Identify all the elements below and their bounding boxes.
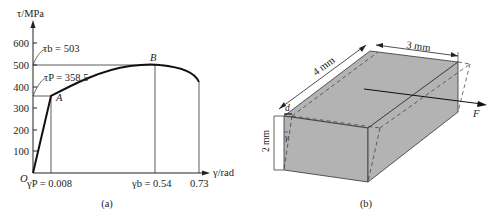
dim-width-label: 3 mm [406,39,432,53]
figure-canvas: 600 500 400 300 200 100 τ/MPa γ/rad O τb… [0,0,491,220]
y-tick-300: 300 [13,103,29,114]
y-tick-500: 500 [13,60,29,71]
x-axis-label: γ/rad [212,167,235,178]
force-arrow-icon [477,101,487,107]
dim-height-label: 2 mm [261,129,271,152]
caption-b: (b) [360,198,373,210]
caption-a: (a) [101,198,113,210]
point-a-label: A [55,92,63,103]
gamma-b-annotation: γb = 0.54 [131,178,172,189]
chart-a: 600 500 400 300 200 100 τ/MPa γ/rad O τb… [13,8,234,210]
diagram-b: 4 mm 3 mm 2 mm d γ F (b) [261,39,487,210]
x-axis-arrow-icon [202,171,210,176]
point-b-label: B [150,52,157,63]
y-axis-label: τ/MPa [17,8,44,19]
tau-b-annotation: τb = 503 [43,43,79,54]
gamma-p-annotation: γP = 0.008 [26,178,72,189]
y-axis-arrow-icon [31,20,36,28]
y-tick-600: 600 [13,38,29,49]
y-tick-400: 400 [13,82,29,93]
force-label: F [472,108,480,119]
shear-disp-label: d [285,103,290,113]
gamma-end-annotation: 0.73 [190,178,208,189]
block-front-face [284,116,368,182]
tau-p-annotation: τP = 358.5 [44,72,88,83]
y-tick-200: 200 [13,125,29,136]
shear-angle-label: γ [285,132,289,142]
y-tick-100: 100 [13,146,29,157]
arrow-icon [359,45,366,52]
dim-length-label: 4 mm [311,54,337,77]
